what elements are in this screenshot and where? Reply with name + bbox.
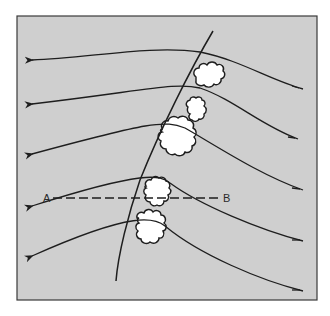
front-diagram: A B (0, 0, 330, 316)
cloud-icon (186, 97, 206, 121)
label-a: A (43, 192, 51, 204)
label-b: B (223, 192, 230, 204)
cloud-icon (136, 209, 166, 243)
